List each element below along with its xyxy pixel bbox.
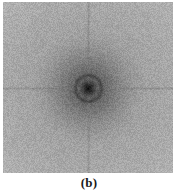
figure-caption: (b): [0, 174, 178, 192]
spectrum-image: [3, 2, 173, 173]
figure-panel: (b): [0, 0, 178, 192]
fourier-spectrum-canvas: [3, 2, 173, 173]
